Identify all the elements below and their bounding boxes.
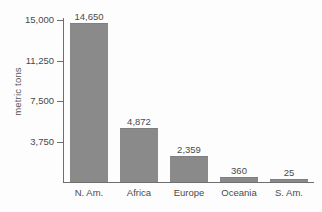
bar-slot[interactable]: 2,359 [170,18,208,182]
y-axis-tick [57,101,64,102]
y-axis-tick [57,142,64,143]
bar-slot[interactable]: 14,650 [70,18,108,182]
bar[interactable] [170,156,208,182]
plot-area: 14,6504,8722,35936025 [64,18,314,182]
x-axis-category-label: Oceania [214,187,264,198]
bar-slot[interactable]: 4,872 [120,18,158,182]
bar-value-label: 4,872 [127,116,151,127]
x-axis-category-label: S. Am. [264,187,314,198]
bar-slot[interactable]: 25 [270,18,308,182]
bar[interactable] [220,177,258,182]
y-axis-tick [57,20,64,21]
x-axis-line [63,182,314,183]
x-axis-category-label: Europe [164,187,214,198]
y-axis-tick-label: 3,750 [0,136,54,147]
x-axis-category-label: N. Am. [64,187,114,198]
bar-value-label: 360 [231,165,247,176]
y-axis-title: metric tons [6,0,28,182]
bar[interactable] [120,128,158,182]
y-axis-tick-label: 7,500 [0,95,54,106]
y-axis-title-text: metric tons [12,67,23,116]
y-axis-tick-label: 15,000 [0,14,54,25]
bar-value-label: 2,359 [177,144,201,155]
x-axis-category-label: Africa [114,187,164,198]
bar-slot[interactable]: 360 [220,18,258,182]
y-axis-tick [57,61,64,62]
bar[interactable] [270,179,308,182]
bar-value-label: 14,650 [74,11,103,22]
bar-chart: metric tons 3,7507,50011,25015,000 14,65… [0,0,322,212]
bar[interactable] [70,23,108,182]
y-axis-tick-label: 11,250 [0,55,54,66]
bar-value-label: 25 [284,167,295,178]
